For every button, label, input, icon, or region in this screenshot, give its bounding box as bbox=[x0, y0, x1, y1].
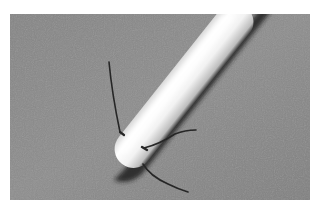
photo-scene bbox=[10, 14, 310, 200]
image-canvas bbox=[0, 0, 320, 208]
photograph bbox=[10, 14, 310, 200]
